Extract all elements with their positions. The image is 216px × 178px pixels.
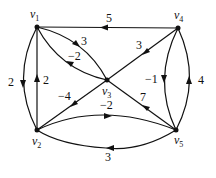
svg-text:−1: −1 (145, 72, 158, 86)
edge-v4-v3: 3 (107, 28, 178, 80)
node-v4: v4 (174, 8, 183, 31)
svg-text:3: 3 (81, 34, 87, 48)
edge-v4-v5: −1 (145, 28, 178, 130)
arrow-icon (186, 76, 192, 84)
edge-v1-v2: 2 (8, 27, 37, 130)
svg-text:−2: −2 (68, 49, 81, 63)
arrow-icon (20, 80, 26, 88)
edge-v5-v2: 3 (37, 130, 176, 164)
svg-text:5: 5 (106, 11, 112, 25)
edge-v5-v4: 4 (176, 28, 204, 130)
svg-text:7: 7 (140, 90, 146, 104)
arrow-icon (100, 25, 108, 31)
node-v1: v1 (30, 7, 40, 30)
node-v2: v2 (32, 128, 41, 151)
edge-v5-v3: 7 (107, 80, 176, 130)
graph-diagram: 5 3 −2 3 −4 7 −1 4 (0, 0, 216, 178)
svg-text:4: 4 (198, 73, 204, 87)
arrow-icon (104, 113, 112, 119)
node-v3: v3 (102, 78, 111, 101)
svg-text:v1: v1 (30, 7, 39, 23)
node-v5: v5 (174, 128, 184, 150)
svg-text:v5: v5 (174, 133, 183, 149)
svg-text:v4: v4 (174, 8, 183, 24)
arrow-icon (161, 75, 167, 83)
edge-v3-v2: −4 (37, 80, 107, 130)
svg-text:2: 2 (43, 73, 49, 87)
svg-text:3: 3 (105, 150, 111, 164)
svg-text:−4: −4 (58, 89, 71, 103)
svg-text:v2: v2 (32, 134, 41, 150)
svg-text:v3: v3 (102, 84, 111, 100)
svg-text:−2: −2 (100, 98, 113, 112)
edge-v4-v1: 5 (37, 11, 178, 31)
svg-text:2: 2 (8, 75, 14, 89)
arrow-icon (34, 74, 40, 82)
arrow-icon (72, 40, 80, 47)
svg-text:3: 3 (136, 38, 142, 52)
